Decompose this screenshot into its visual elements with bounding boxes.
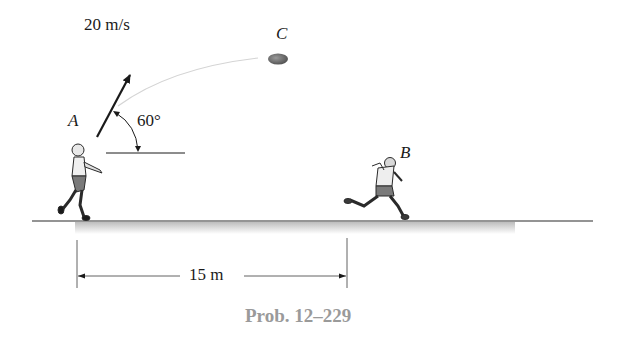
projectile-diagram — [0, 0, 629, 343]
trajectory-path — [118, 58, 258, 106]
point-a-label: A — [68, 111, 78, 131]
player-a-figure — [58, 144, 102, 221]
angle-label: 60° — [137, 111, 161, 131]
angle-arc-arrowhead-bottom — [135, 146, 141, 152]
distance-label: 15 m — [189, 265, 223, 285]
ground-shading — [75, 222, 515, 234]
angle-arc-arrowhead-top — [113, 111, 120, 117]
point-c-label: C — [276, 24, 287, 44]
point-b-label: B — [400, 143, 410, 163]
figure-caption: Prob. 12–229 — [245, 305, 351, 327]
velocity-label: 20 m/s — [84, 15, 130, 35]
angle-arc — [116, 113, 138, 150]
football-icon — [268, 54, 288, 65]
player-b-figure — [344, 158, 409, 220]
velocity-arrow — [97, 75, 130, 137]
